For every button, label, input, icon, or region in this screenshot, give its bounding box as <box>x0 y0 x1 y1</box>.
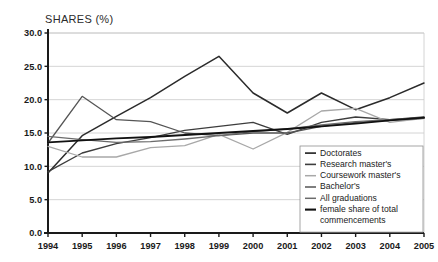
legend-label: Bachelor's <box>320 181 360 191</box>
legend-label: commencements <box>320 215 385 225</box>
x-tick-label: 2003 <box>345 241 365 251</box>
series-line-bachelor-s <box>48 96 424 143</box>
y-tick-label: 0.0 <box>29 228 42 238</box>
y-axis-group: 30.025.020.015.010.05.00.0 <box>24 28 48 238</box>
x-tick-label: 2000 <box>243 241 263 251</box>
x-tick-label: 1998 <box>175 241 195 251</box>
y-tick-label: 10.0 <box>24 162 42 172</box>
chart-legend: DoctoratesResearch master'sCoursework ma… <box>300 146 423 232</box>
x-tick-label: 1999 <box>209 241 229 251</box>
legend-label: All graduations <box>320 193 377 203</box>
legend-label: female share of total <box>320 204 398 214</box>
x-tick-label: 2002 <box>311 241 331 251</box>
y-tick-label: 15.0 <box>24 128 42 138</box>
x-axis-group: 1994199519961997199819992000200120022003… <box>38 233 434 251</box>
line-chart-svg: 30.025.020.015.010.05.00.0 1994199519961… <box>0 0 438 262</box>
y-tick-label: 30.0 <box>24 28 42 38</box>
legend-label: Research master's <box>320 159 391 169</box>
chart-figure: SHARES (%) 30.025.020.015.010.05.00.0 19… <box>0 0 438 262</box>
x-tick-label: 1997 <box>140 241 160 251</box>
x-tick-label: 1996 <box>106 241 126 251</box>
legend-label: Coursework master's <box>320 170 400 180</box>
y-tick-label: 5.0 <box>29 195 42 205</box>
x-tick-label: 1995 <box>72 241 92 251</box>
x-tick-label: 2005 <box>414 241 434 251</box>
y-tick-label: 20.0 <box>24 95 42 105</box>
x-tick-label: 1994 <box>38 241 59 251</box>
x-tick-label: 2004 <box>380 241 401 251</box>
x-tick-label: 2001 <box>277 241 297 251</box>
y-tick-label: 25.0 <box>24 62 42 72</box>
legend-label: Doctorates <box>320 148 362 158</box>
